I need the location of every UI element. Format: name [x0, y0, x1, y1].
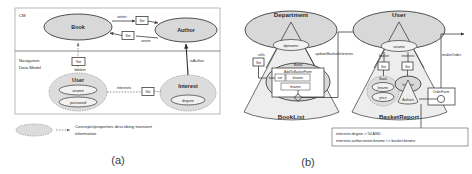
form-row-0-col2-label: bname	[293, 76, 303, 80]
node-user-prop-password-label: password	[70, 101, 86, 105]
panel-a: CM Navigation Data Model Book Author Set…	[0, 0, 236, 174]
set-box-sells-label: Set	[256, 61, 261, 65]
node-book-prop-price-label: price	[379, 96, 386, 100]
edge-wrote-right	[136, 36, 158, 38]
cm-section-label: CM	[19, 13, 26, 18]
link-makeorder-line	[441, 34, 464, 88]
set-box-basket-label: Set	[76, 60, 81, 64]
edge-label-wrote: wrote	[141, 39, 150, 43]
form-addtobasket-title: AddToBasketForm	[284, 70, 312, 74]
edge-writer-right	[148, 21, 158, 23]
node-department-label: Department	[274, 11, 308, 18]
node-author-label: Author	[177, 27, 196, 33]
node-user-b-prop-uname-label: uname	[393, 45, 405, 49]
node-book-basketreport-label: Book	[379, 77, 387, 81]
set-box-writer-label: Set	[139, 19, 144, 23]
legend-text-line1: Concepts/properties describing transient	[75, 124, 153, 129]
link-label-makeorder: makeOrder	[442, 53, 462, 57]
panel-b: Department dptname BookList sells Set Bo…	[236, 0, 472, 174]
form-row-1-col2-label: bname	[290, 85, 300, 89]
set-box-interests-b-label: Set	[405, 65, 410, 69]
legend-text-line2: information	[75, 131, 97, 136]
edge-label-interests: interests	[117, 86, 131, 90]
node-interest	[160, 75, 216, 111]
navigation-section-label-line2: Data Model	[19, 65, 41, 70]
node-user-prop-uname-label: uname	[72, 89, 84, 93]
edge-label-sells: sells	[258, 53, 265, 57]
constraint-line2: interests.author.wrote.bname <> basket.b…	[336, 139, 415, 143]
node-interest-label: Interest	[178, 83, 198, 89]
edge-label-isauthor: isAuthor	[190, 59, 205, 63]
node-book-booklist-label: Book	[294, 63, 303, 67]
edge-isauthor-line	[186, 44, 188, 75]
legend-transient-swatch	[16, 124, 52, 136]
panel-b-diagram: Department dptname BookList sells Set Bo…	[236, 0, 472, 174]
set-box-basket-b-label: Set	[381, 65, 386, 69]
node-user-b-label: User	[392, 11, 406, 18]
set-box-interests-label: Set	[145, 90, 150, 94]
edge-label-writer: writer	[117, 15, 127, 19]
edge-label-basket-b: basket	[379, 54, 389, 58]
constraint-line1: interests.degree > 50 AND	[336, 132, 381, 136]
form-row-0-col1-label: set	[278, 76, 283, 80]
node-book-label: Book	[71, 24, 84, 30]
form-orderform-trigger-icon[interactable]	[437, 95, 444, 102]
panel-b-caption: (b)	[301, 156, 314, 168]
edge-wrote-left	[110, 33, 122, 36]
node-book-prop-bname-label: bname	[378, 86, 388, 90]
edge-label-basket: basket	[74, 68, 86, 72]
set-box-wrote-label: Set	[125, 34, 130, 38]
navigation-section-label-line1: Navigation	[19, 58, 40, 63]
node-interest-prop-authors-label: Authors	[402, 98, 414, 102]
panel-a-caption: (a)	[111, 154, 124, 166]
node-department-prop-dptname-label: dptname	[284, 44, 299, 48]
node-interest-prop-degree-label: degree	[182, 99, 194, 103]
panel-a-diagram: CM Navigation Data Model Book Author Set…	[0, 0, 236, 174]
constraint-box	[332, 128, 468, 146]
cone-booklist-label: BookList	[278, 113, 304, 120]
figure-root: CM Navigation Data Model Book Author Set…	[0, 0, 472, 174]
node-user-label: User	[72, 77, 85, 83]
edge-label-interests-b: interests	[402, 54, 415, 58]
link-label-updatebasketinterests: updateBasketInterests	[315, 52, 353, 56]
form-orderform-title: OrderForm	[433, 90, 450, 94]
cone-basketreport-label: BasketReport	[379, 113, 419, 120]
